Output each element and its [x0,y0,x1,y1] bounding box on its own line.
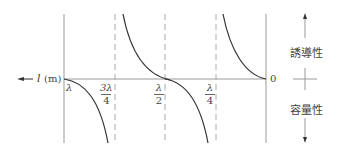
axis-label: l (m) [37,73,61,84]
origin-label: 0 [270,74,276,84]
inductive-curve-1 [123,14,170,80]
tick-denominator: 4 [103,96,109,106]
tick-three-quarter-lambda: 3λ 4 [100,83,113,106]
tick-numerator: λ [156,83,162,93]
capacitive-curve-2 [165,79,208,143]
tick-numerator: λ [207,83,213,93]
inductive-curve-2 [223,14,266,79]
up-arrow-icon [303,13,307,19]
tick-lambda: λ [66,83,72,93]
legend-capacitive: 容量性 [290,101,323,117]
tick-quarter-lambda: λ 4 [205,83,215,106]
tick-half-lambda: λ 2 [154,83,164,106]
legend-inductive: 誘導性 [290,44,323,60]
axis-unit: (m) [44,73,61,84]
axis-variable: l [37,72,41,85]
tick-numerator: 3λ [100,83,113,93]
left-arrow-icon [17,77,24,81]
tick-denominator: 4 [207,96,213,106]
tick-denominator: 2 [156,96,162,106]
down-arrow-icon [303,137,307,143]
